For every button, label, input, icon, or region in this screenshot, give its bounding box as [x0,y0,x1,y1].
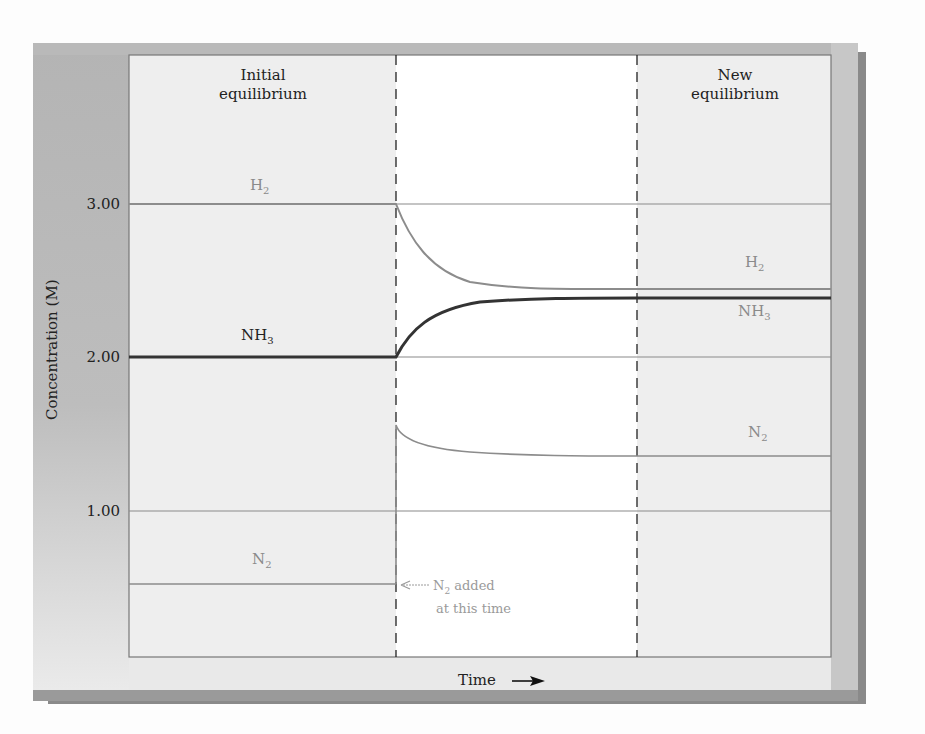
annotation-line2: at this time [433,600,511,617]
new-label-line2: equilibrium [650,85,820,104]
y-axis-label: Concentration (M) [43,279,61,420]
y-tick-2: 2.00 [78,348,120,366]
nh3-label-initial: NH3 [241,326,274,346]
x-axis-label: Time [458,671,496,689]
new-label-line1: New [650,66,820,85]
nh3-label-new: NH3 [738,302,771,322]
h2-label-new: H2 [745,253,764,273]
transition-region-bg [396,55,637,657]
new-region-bg [637,55,831,657]
n2-added-annotation: N2 added at this time [433,577,511,617]
n2-label-initial: N2 [252,550,272,570]
y-tick-3: 3.00 [78,195,120,213]
initial-equilibrium-label: Initial equilibrium [178,66,348,104]
n2-label-new: N2 [748,423,768,443]
h2-label-initial: H2 [250,176,269,196]
annotation-line1: N2 added [433,577,511,600]
y-tick-1: 1.00 [78,502,120,520]
new-equilibrium-label: New equilibrium [650,66,820,104]
arrow-right-icon [512,676,545,686]
initial-label-line1: Initial [178,66,348,85]
chart-plot [0,0,925,734]
initial-label-line2: equilibrium [178,85,348,104]
